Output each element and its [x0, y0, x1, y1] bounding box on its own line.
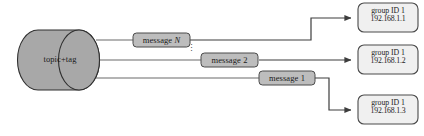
group-box-2-shape: [358, 45, 418, 74]
message-2-box-shape: [201, 53, 258, 67]
cylinder-end-cap: [59, 30, 100, 90]
message-routing-diagram: topic+tag message N message 2 message 1 …: [0, 0, 424, 136]
diagram-canvas: [0, 0, 424, 136]
group-boxes: [358, 3, 418, 124]
group-box-3-shape: [358, 95, 418, 124]
route-to-group-1: [190, 18, 351, 40]
message-1-box-shape: [259, 71, 315, 85]
message-boxes: [133, 33, 315, 85]
message-n-box-shape: [133, 33, 190, 47]
route-to-group-3: [315, 78, 351, 110]
group-box-1-shape: [358, 3, 418, 32]
topic-tag-cylinder: [17, 30, 99, 90]
